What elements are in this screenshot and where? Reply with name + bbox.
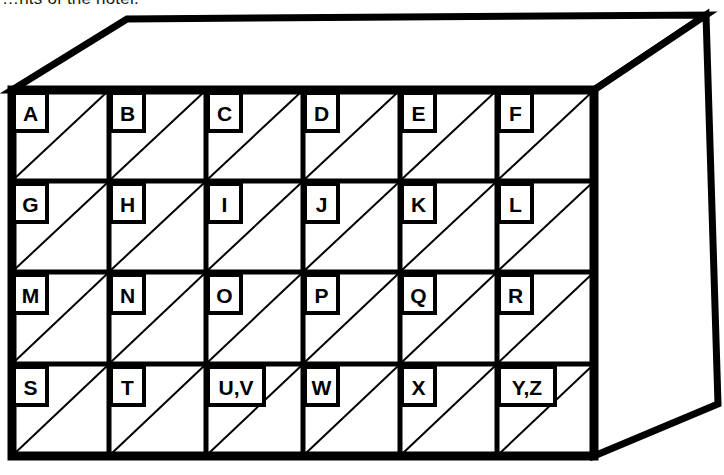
cell-label: M	[22, 284, 40, 307]
cell-label: E	[411, 102, 425, 125]
pigeonhole-cell[interactable]: L	[499, 184, 532, 222]
cell-label: Y,Z	[512, 376, 543, 399]
pigeonhole-cell[interactable]: I	[208, 184, 241, 222]
pigeonhole-cell[interactable]: U,V	[208, 367, 264, 405]
pigeonhole-cell[interactable]: E	[402, 93, 435, 131]
cell-label: L	[509, 193, 522, 216]
pigeonhole-cell[interactable]: N	[111, 275, 144, 313]
pigeonhole-cell[interactable]: K	[402, 184, 435, 222]
pigeonhole-cell[interactable]: R	[499, 275, 532, 313]
cell-label: F	[509, 102, 522, 125]
pigeonhole-cell[interactable]: C	[208, 93, 241, 131]
cell-label: C	[217, 102, 232, 125]
cell-label: X	[411, 376, 425, 399]
cell-label: R	[508, 284, 523, 307]
cell-label: P	[314, 284, 328, 307]
cell-label: A	[23, 102, 38, 125]
pigeonhole-cell[interactable]: D	[305, 93, 338, 131]
pigeonhole-cell[interactable]: A	[14, 93, 47, 131]
cell-label-group: ABCDEFGHIJKLMNOPQRSTU,VWXY,Z	[14, 93, 555, 405]
cell-label: T	[121, 376, 134, 399]
pigeonhole-cell[interactable]: F	[499, 93, 532, 131]
pigeonhole-cell[interactable]: H	[111, 184, 144, 222]
mail-rack-diagram: ABCDEFGHIJKLMNOPQRSTU,VWXY,Z	[0, 0, 724, 475]
pigeonhole-cell[interactable]: O	[208, 275, 241, 313]
cell-label: U,V	[218, 376, 253, 399]
pigeonhole-cell[interactable]: G	[14, 184, 47, 222]
pigeonhole-cell[interactable]: J	[305, 184, 338, 222]
pigeonhole-cell[interactable]: S	[14, 367, 47, 405]
cell-label: D	[314, 102, 329, 125]
cell-label: Q	[410, 284, 426, 307]
cell-label: I	[222, 193, 228, 216]
pigeonhole-cell[interactable]: Q	[402, 275, 435, 313]
cell-label: S	[23, 376, 37, 399]
cell-label: H	[120, 193, 135, 216]
figure-stage: …nts of the hotel. ABCDEFGHIJKLMNOPQRSTU…	[0, 0, 724, 475]
pigeonhole-cell[interactable]: X	[402, 367, 435, 405]
pigeonhole-cell[interactable]: P	[305, 275, 338, 313]
cell-label: W	[312, 376, 332, 399]
cell-label: B	[120, 102, 135, 125]
box-side-face	[594, 15, 718, 456]
pigeonhole-cell[interactable]: B	[111, 93, 144, 131]
cell-label: K	[411, 193, 426, 216]
pigeonhole-cell[interactable]: T	[111, 367, 144, 405]
cell-label: N	[120, 284, 135, 307]
cell-label: O	[216, 284, 232, 307]
box-top-panel	[12, 15, 706, 90]
box-side-panel	[594, 15, 718, 456]
cell-label: G	[22, 193, 38, 216]
pigeonhole-cell[interactable]: M	[14, 275, 47, 313]
cell-label: J	[316, 193, 328, 216]
pigeonhole-cell[interactable]: W	[305, 367, 338, 405]
box-top-face	[12, 15, 706, 90]
pigeonhole-cell[interactable]: Y,Z	[499, 367, 555, 405]
